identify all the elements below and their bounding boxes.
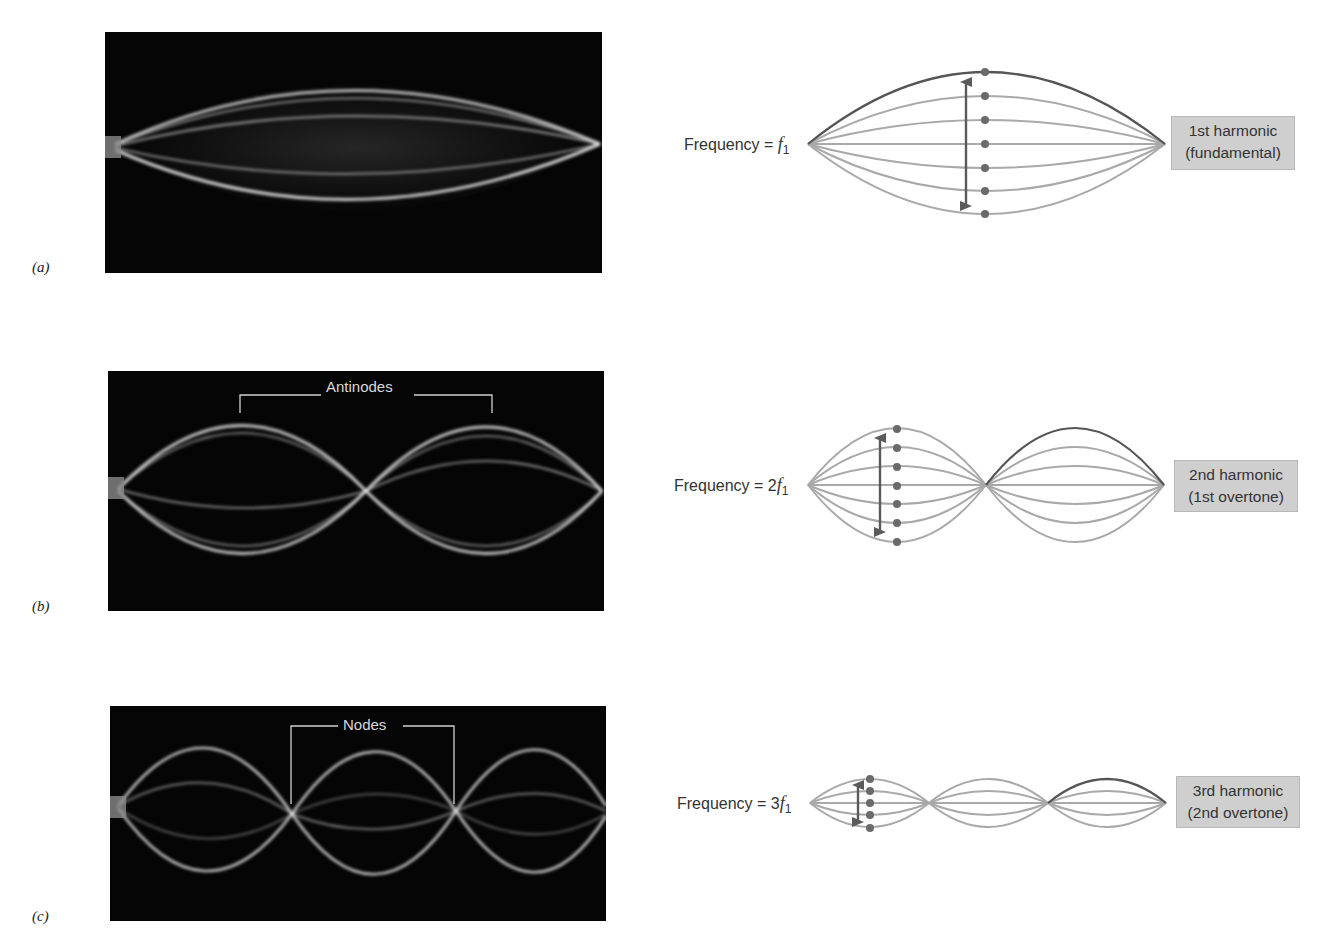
displacement-dots [866,775,874,832]
displacement-dots [981,68,989,218]
harmonic-label-box-second: 2nd harmonic (1st overtone) [1174,460,1298,512]
third-harmonic-mode-diagram [810,779,1166,827]
frequency-label-fundamental: Frequency = f1 [684,134,790,157]
harmonics-schematic [0,0,1324,946]
second-harmonic-mode-diagram [808,428,1164,542]
frequency-label-second-harmonic: Frequency = 2f1 [674,475,788,498]
harmonic-label-box-first: 1st harmonic (fundamental) [1171,116,1295,170]
displacement-dots [893,425,901,546]
harmonic-label-box-third: 3rd harmonic (2nd overtone) [1176,776,1300,828]
frequency-label-third-harmonic: Frequency = 3f1 [677,793,791,816]
